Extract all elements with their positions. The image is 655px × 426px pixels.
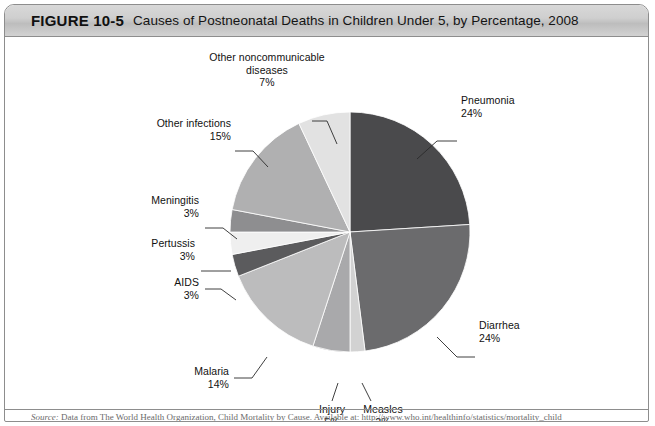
leader-line-malaria bbox=[234, 357, 267, 378]
pie-value-malaria: 14% bbox=[101, 378, 229, 391]
figure-card: FIGURE 10-5 Causes of Postneonatal Death… bbox=[4, 4, 649, 422]
pie-label-pertussis-name: Pertussis bbox=[151, 237, 195, 249]
pie-value-pneumonia: 24% bbox=[461, 107, 515, 120]
leader-line-injury bbox=[332, 383, 338, 401]
pie-label-malaria: Malaria 14% bbox=[101, 365, 229, 390]
pie-value-other-infections: 15% bbox=[95, 130, 231, 143]
pie-label-other-infections-name: Other infections bbox=[157, 117, 231, 129]
pie-value-aids: 3% bbox=[65, 289, 199, 302]
leader-line-diarrhea bbox=[437, 337, 475, 357]
pie-value-pertussis: 3% bbox=[61, 250, 195, 263]
pie-value-other-noncommunicable: 7% bbox=[197, 76, 337, 89]
pie-chart-plot-area: Other noncommunicable diseases 7% Pneumo… bbox=[5, 37, 648, 409]
pie-label-diarrhea: Diarrhea 24% bbox=[479, 319, 520, 344]
pie-label-aids: AIDS 3% bbox=[65, 276, 199, 301]
leader-line-aids bbox=[205, 289, 236, 300]
figure-number: FIGURE 10-5 bbox=[31, 12, 124, 29]
pie-label-pertussis: Pertussis 3% bbox=[61, 237, 195, 262]
source-text: Data from The World Health Organization,… bbox=[61, 412, 562, 422]
figure-header: FIGURE 10-5 Causes of Postneonatal Death… bbox=[5, 5, 648, 37]
pie-slice-diarrhea[interactable] bbox=[350, 224, 470, 351]
pie-label-other-noncommunicable-line1: Other noncommunicable bbox=[209, 51, 324, 63]
pie-label-diarrhea-name: Diarrhea bbox=[479, 319, 520, 331]
source-divider bbox=[5, 409, 648, 410]
pie-label-meningitis: Meningitis 3% bbox=[65, 194, 199, 219]
pie-label-pneumonia-name: Pneumonia bbox=[461, 94, 515, 106]
pie-label-other-infections: Other infections 15% bbox=[95, 117, 231, 142]
pie-label-malaria-name: Malaria bbox=[194, 365, 229, 377]
pie-label-pneumonia: Pneumonia 24% bbox=[461, 94, 515, 119]
pie-slices-group bbox=[230, 112, 470, 352]
pie-label-aids-name: AIDS bbox=[174, 276, 199, 288]
source-caption: Source: Data from The World Health Organ… bbox=[31, 412, 641, 422]
figure-title: Causes of Postneonatal Deaths in Childre… bbox=[133, 13, 579, 28]
source-label: Source: bbox=[31, 412, 59, 422]
pie-label-other-noncommunicable-line2: diseases bbox=[246, 64, 288, 76]
pie-label-meningitis-name: Meningitis bbox=[151, 194, 199, 206]
pie-label-other-noncommunicable: Other noncommunicable diseases 7% bbox=[197, 51, 337, 89]
leader-line-measles bbox=[362, 383, 371, 401]
pie-value-meningitis: 3% bbox=[65, 207, 199, 220]
pie-chart-svg bbox=[5, 37, 648, 409]
pie-slice-pneumonia[interactable] bbox=[350, 112, 470, 232]
pie-value-diarrhea: 24% bbox=[479, 332, 520, 345]
